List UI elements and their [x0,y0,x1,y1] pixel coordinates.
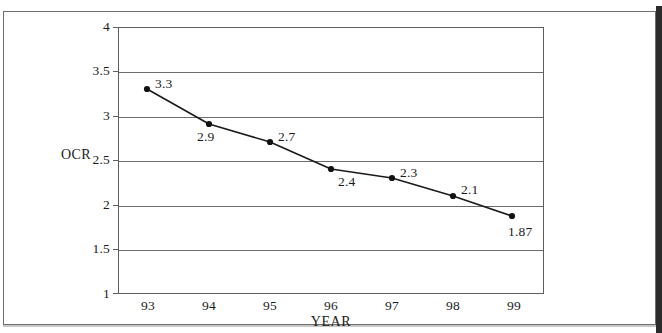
data-point-93 [144,86,150,92]
series-line [147,89,512,216]
data-point-97 [389,175,395,181]
data-label-93: 3.3 [155,76,172,92]
data-label-94: 2.9 [197,129,214,145]
data-label-97: 2.3 [400,165,417,181]
data-label-95: 2.7 [278,129,295,145]
line-chart: 4 3.5 3 2.5 2 1.5 1 OCR 93 94 95 96 97 9… [0,0,662,333]
data-label-98: 2.1 [461,182,478,198]
data-point-99 [509,213,515,219]
data-label-96: 2.4 [338,174,355,190]
data-label-99: 1.87 [508,224,532,240]
data-point-95 [267,139,273,145]
data-point-98 [450,193,456,199]
data-series-ocr [0,0,662,333]
data-point-94 [206,121,212,127]
scanned-chart-page: 4 3.5 3 2.5 2 1.5 1 OCR 93 94 95 96 97 9… [0,0,662,333]
data-point-96 [328,166,334,172]
